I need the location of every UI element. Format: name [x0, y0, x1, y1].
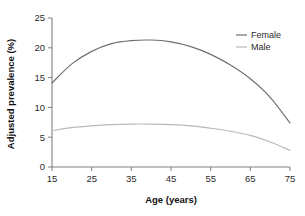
- x-tick-label: 45: [166, 173, 177, 184]
- x-tick-label: 65: [245, 173, 256, 184]
- chart-figure: 0510152025 15253545556575 FemaleMale Age…: [0, 0, 305, 216]
- line-chart: 0510152025 15253545556575 FemaleMale Age…: [0, 0, 305, 216]
- y-tick-label: 20: [34, 42, 45, 53]
- x-tick-label: 15: [47, 173, 58, 184]
- y-tick-label: 15: [34, 72, 45, 83]
- x-tick-label: 25: [86, 173, 97, 184]
- x-tick-label: 55: [205, 173, 216, 184]
- legend-label-male: Male: [251, 42, 271, 52]
- x-tick-label: 75: [285, 173, 296, 184]
- y-tick-label: 10: [34, 102, 45, 113]
- x-tick-label: 35: [126, 173, 137, 184]
- x-axis-title: Age (years): [145, 194, 197, 205]
- legend-label-female: Female: [251, 30, 281, 40]
- y-axis-title: Adjusted prevalence (%): [5, 39, 16, 149]
- y-tick-label: 0: [40, 161, 45, 172]
- y-tick-label: 25: [34, 12, 45, 23]
- y-tick-label: 5: [40, 132, 45, 143]
